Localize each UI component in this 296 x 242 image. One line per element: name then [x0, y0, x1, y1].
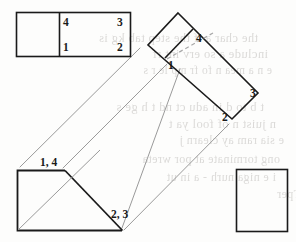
rotated-view-label-1: 1 [168, 60, 174, 72]
projection-line-1 [20, 48, 140, 167]
top-view-label-2: 2 [117, 42, 123, 54]
projection-line-2 [63, 64, 167, 168]
top-view-label-1: 1 [63, 42, 69, 54]
figure-canvas: the char a if the step tab kg isinclude … [0, 0, 296, 242]
front-view-label-2-3: 2, 3 [111, 209, 128, 221]
front-view-main-diagonal [65, 171, 123, 231]
rotated-view-label-3: 3 [250, 88, 256, 100]
projection-line-4 [124, 124, 229, 230]
projection-line-3 [122, 69, 180, 228]
rotated-view-hidden-edge [167, 33, 213, 59]
top-view-label-4: 4 [63, 17, 69, 29]
rotated-view-label-4: 4 [196, 33, 202, 45]
top-view-label-3: 3 [117, 17, 123, 29]
rotated-view-label-2: 2 [222, 112, 228, 124]
front-view-cross-diagonal [18, 150, 100, 230]
rotated-view-divider [165, 29, 193, 58]
front-view-group [18, 150, 123, 231]
side-view-group [237, 170, 288, 232]
front-view-label-1-4: 1, 4 [40, 157, 57, 169]
side-view-outline [237, 170, 288, 232]
top-view-outline [17, 13, 131, 57]
top-view-group [17, 13, 131, 57]
technical-drawing [0, 0, 296, 242]
projection-lines-group [20, 48, 229, 230]
